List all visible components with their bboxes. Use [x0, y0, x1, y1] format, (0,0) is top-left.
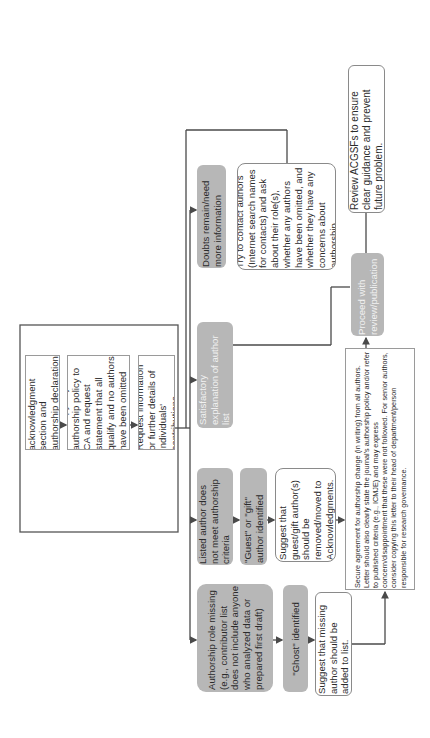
outcome-listed-not-meet-text: Listed author does not meet authorship c…: [197, 470, 232, 564]
step-review-acknowledgment: Review acknowledgment section and author…: [25, 355, 60, 450]
outcome-satisfactory: Satisfactory explanation of author list: [197, 322, 233, 428]
step-request-information: Request information or further details o…: [138, 355, 175, 450]
review-acgsfs-text: Review ACGSFs to ensure clear guidance a…: [348, 68, 385, 210]
review-acgsfs: Review ACGSFs to ensure clear guidance a…: [348, 65, 385, 213]
step-review-acknowledgment-text: Review acknowledgment section and author…: [25, 355, 60, 450]
step-send-policy-text: Send copy of journal authorship policy t…: [67, 355, 130, 450]
secure-agreement-text: Secure agreement for authorship change (…: [353, 350, 408, 588]
guest-identified-text: "Guest" or "gift" author identified: [242, 471, 265, 563]
guest-action-text: Suggest that guest/gift author(s) should…: [276, 470, 335, 560]
proceed-with-review: Proceed with review/publication: [351, 253, 384, 336]
doubts-action-contact-authors: Try to contact authors (Internet search …: [237, 163, 336, 270]
proceed-text: Proceed with review/publication: [356, 255, 379, 335]
ghost-identified: "Ghost" identified: [283, 585, 308, 692]
ghost-action: Suggest that missing author should be ad…: [315, 592, 352, 696]
guest-action: Suggest that guest/gift author(s) should…: [275, 468, 336, 562]
outcome-doubts-text: Doubts remain/need more information: [200, 167, 223, 267]
outcome-satisfactory-text: Satisfactory explanation of author list: [197, 325, 232, 425]
secure-agreement: Secure agreement for authorship change (…: [345, 348, 415, 590]
outcome-listed-not-meet: Listed author does not meet authorship c…: [197, 468, 233, 565]
outcome-role-missing: Authorship role missing (e.g., contribut…: [197, 584, 273, 692]
ghost-identified-text: "Ghost" identified: [290, 589, 302, 689]
outcome-role-missing-text: Authorship role missing (e.g., contribut…: [206, 586, 265, 690]
outcome-doubts: Doubts remain/need more information: [197, 165, 226, 268]
step-send-policy: Send copy of journal authorship policy t…: [67, 355, 130, 450]
guest-identified: "Guest" or "gift" author identified: [240, 468, 267, 565]
step-request-information-text: Request information or further details o…: [138, 355, 175, 450]
ghost-action-text: Suggest that missing author should be ad…: [316, 594, 351, 694]
doubts-action-text: Try to contact authors (Internet search …: [237, 166, 336, 268]
